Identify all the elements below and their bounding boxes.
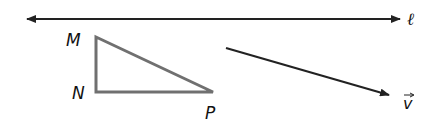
triangle-mnp bbox=[96, 37, 213, 92]
diagram-svg: ℓ M N P v bbox=[0, 0, 444, 127]
line-label-l: ℓ bbox=[407, 9, 414, 29]
vertex-label-n: N bbox=[72, 83, 85, 103]
vertex-label-p: P bbox=[205, 103, 216, 123]
vector-v bbox=[226, 48, 389, 95]
vertex-label-m: M bbox=[66, 30, 81, 50]
diagram-canvas: ℓ M N P v bbox=[0, 0, 444, 127]
vector-label-v: v bbox=[403, 94, 413, 113]
